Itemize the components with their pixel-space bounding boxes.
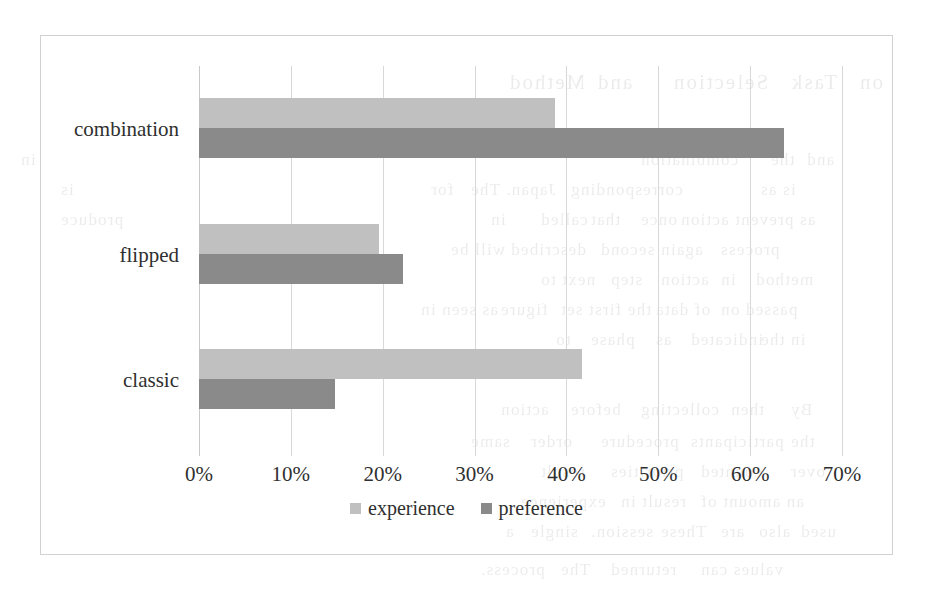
x-tick-label-20pct: 20%	[363, 464, 402, 485]
gridline-70pct	[842, 66, 843, 456]
preference-swatch	[481, 503, 492, 514]
legend-label-experience: experience	[368, 498, 455, 518]
x-tick-label-30pct: 30%	[455, 464, 494, 485]
bleed-text: The	[560, 560, 590, 580]
x-tick-label-70pct: 70%	[823, 464, 862, 485]
plot-area	[199, 66, 842, 456]
legend-entry-preference[interactable]: preference	[481, 498, 583, 518]
bar-flipped-experience	[199, 224, 379, 254]
chart-legend: experiencepreference	[41, 498, 892, 518]
bar-flipped-preference	[199, 254, 403, 284]
x-tick-label-60pct: 60%	[731, 464, 770, 485]
bar-classic-experience	[199, 349, 582, 379]
legend-entry-experience[interactable]: experience	[350, 498, 455, 518]
bleed-text: values can	[700, 560, 783, 580]
x-tick-label-0pct: 0%	[185, 464, 213, 485]
chart-frame: combinationflippedclassic 0%10%20%30%40%…	[40, 35, 893, 555]
category-axis: combinationflippedclassic	[41, 66, 191, 456]
gridline-50pct	[658, 66, 659, 456]
x-axis-ticks: 0%10%20%30%40%50%60%70%	[199, 464, 842, 494]
bleed-text: in	[20, 150, 36, 170]
bleed-text: returned	[610, 560, 676, 580]
gridline-60pct	[750, 66, 751, 456]
bar-classic-preference	[199, 379, 335, 409]
category-label-classic: classic	[123, 370, 179, 391]
category-label-combination: combination	[74, 119, 179, 140]
legend-label-preference: preference	[499, 498, 583, 518]
category-label-flipped: flipped	[120, 245, 179, 266]
bar-combination-experience	[199, 98, 555, 128]
x-tick-label-10pct: 10%	[272, 464, 311, 485]
x-tick-label-50pct: 50%	[639, 464, 678, 485]
x-tick-label-40pct: 40%	[547, 464, 586, 485]
gridline-40pct	[566, 66, 567, 456]
experience-swatch	[350, 503, 361, 514]
bleed-text: process.	[480, 560, 545, 580]
bar-combination-preference	[199, 128, 784, 158]
